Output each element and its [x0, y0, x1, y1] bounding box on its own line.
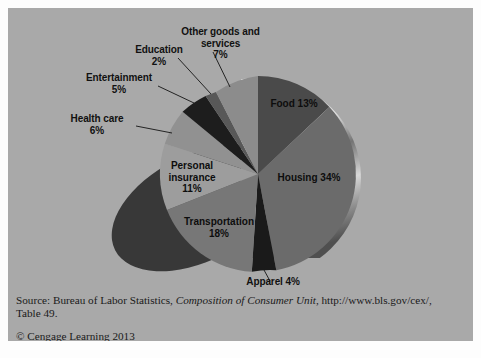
label-apparel-text: Apparel 4%	[233, 276, 313, 288]
label-entertainment-percent: 5%	[80, 84, 158, 96]
label-education: Education 2%	[123, 44, 195, 67]
label-health-care: Health care 6%	[62, 113, 132, 136]
label-food: Food 13%	[258, 98, 330, 110]
label-entertainment-name: Entertainment	[80, 72, 158, 84]
source-block: Source: Bureau of Labor Statistics, Comp…	[16, 294, 466, 341]
label-other-goods-line1: Other goods and	[173, 26, 268, 38]
pie-chart: Other goods and services 7% Education 2%…	[8, 8, 473, 291]
source-suffix: , http://www.bls.gov/cex/,	[316, 294, 432, 306]
label-transportation-name: Transportation	[173, 216, 265, 228]
source-line-1: Source: Bureau of Labor Statistics, Comp…	[16, 294, 466, 307]
label-personal-insurance: Personal insurance 11%	[153, 160, 231, 195]
label-housing: Housing 34%	[266, 172, 352, 184]
copyright-notice: © Cengage Learning 2013	[16, 330, 466, 341]
label-health-care-name: Health care	[62, 113, 132, 125]
leader-line-entertainment	[158, 86, 194, 103]
label-education-name: Education	[123, 44, 195, 56]
label-entertainment: Entertainment 5%	[80, 72, 158, 95]
label-apparel: Apparel 4%	[233, 276, 313, 288]
label-education-percent: 2%	[123, 56, 195, 68]
source-prefix: Source: Bureau of Labor Statistics,	[16, 294, 176, 306]
source-line-2: Table 49.	[16, 307, 466, 320]
label-housing-text: Housing 34%	[266, 172, 352, 184]
label-health-care-percent: 6%	[62, 125, 132, 137]
label-personal-insurance-line1: Personal	[153, 160, 231, 172]
figure-panel: Other goods and services 7% Education 2%…	[8, 8, 473, 341]
label-personal-insurance-line2: insurance	[153, 172, 231, 184]
label-personal-insurance-percent: 11%	[153, 183, 231, 195]
source-italic-title: Composition of Consumer Unit	[176, 294, 316, 306]
leader-line-health-care	[136, 126, 172, 133]
label-transportation: Transportation 18%	[173, 216, 265, 239]
label-food-text: Food 13%	[258, 98, 330, 110]
label-transportation-percent: 18%	[173, 228, 265, 240]
